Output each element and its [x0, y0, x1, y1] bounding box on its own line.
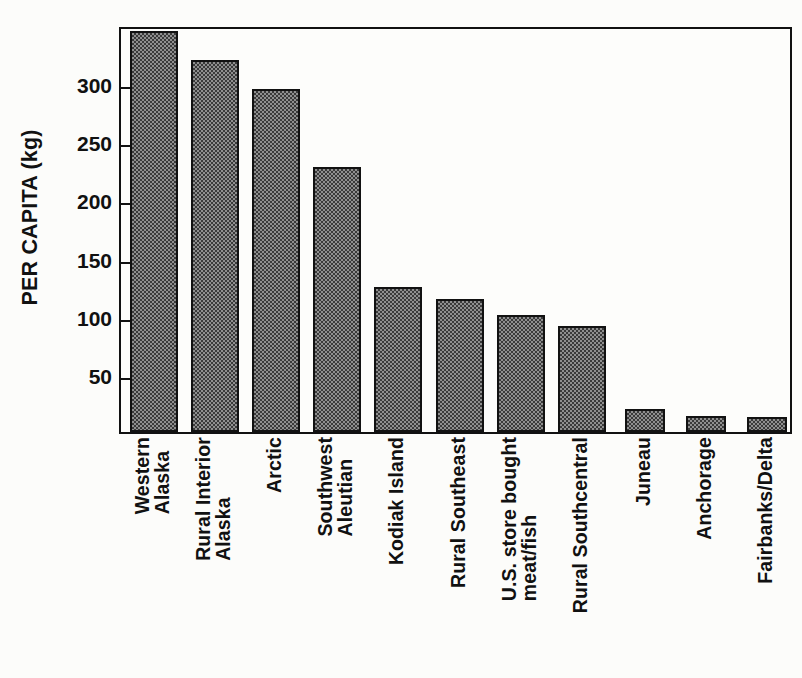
x-axis-category-label: Rural Southcentral [550, 437, 610, 675]
bar [130, 31, 178, 432]
y-axis-tick-labels: 50100150200250300 [52, 0, 112, 678]
x-axis-category-label-text: Rural Southcentral [570, 437, 590, 613]
x-axis-category-label: Arctic [244, 437, 304, 675]
x-axis-category-label: Rural Southeast [428, 437, 488, 675]
x-axis-category-label-text: Rural Southeast [447, 437, 467, 588]
bar [313, 167, 361, 432]
y-axis-tick-label: 200 [54, 191, 112, 212]
x-axis-category-label: Fairbanks/Delta [735, 437, 795, 675]
x-axis-category-label-text: WesternAlaska [132, 437, 172, 514]
bar [374, 287, 422, 432]
x-axis-category-label: U.S. store boughtmeat/fish [489, 437, 549, 675]
y-axis-title: PER CAPITA (kg) [8, 0, 52, 434]
y-axis-tick-label: 300 [54, 75, 112, 96]
y-axis-tick-label: 50 [54, 365, 112, 386]
bar [436, 299, 484, 432]
bar [686, 416, 726, 432]
x-axis-category-labels: WesternAlaskaRural InteriorAlaskaArcticS… [119, 437, 792, 678]
bar [747, 417, 787, 432]
y-axis-title-text: PER CAPITA (kg) [18, 129, 43, 305]
x-axis-category-label-text: Fairbanks/Delta [755, 437, 775, 584]
x-axis-category-label-text: Arctic [264, 437, 284, 493]
x-axis-category-label: Anchorage [674, 437, 734, 675]
x-axis-category-label-text: Rural InteriorAlaska [193, 437, 233, 561]
bar [625, 409, 665, 432]
x-axis-category-label-text: Kodiak Island [386, 437, 406, 565]
x-axis-category-label-text: Juneau [633, 437, 653, 506]
x-axis-category-label: SouthwestAleutian [305, 437, 365, 675]
chart-page: PER CAPITA (kg) 50100150200250300 Wester… [0, 0, 802, 678]
bar [558, 326, 606, 432]
x-axis-category-label-text: SouthwestAleutian [315, 437, 355, 537]
plot-inner [121, 29, 790, 432]
x-axis-category-label-text: Anchorage [694, 437, 714, 540]
x-axis-category-label: Kodiak Island [366, 437, 426, 675]
y-axis-tick-label: 100 [54, 307, 112, 328]
bar [191, 60, 239, 432]
caption-remnant [300, 667, 802, 678]
x-axis-category-label: Juneau [613, 437, 673, 675]
bar [497, 315, 545, 432]
x-axis-category-label: WesternAlaska [122, 437, 182, 675]
y-axis-tick-label: 250 [54, 133, 112, 154]
plot-area [119, 27, 792, 434]
y-axis-tick-label: 150 [54, 249, 112, 270]
x-axis-category-label: Rural InteriorAlaska [183, 437, 243, 675]
x-axis-category-label-text: U.S. store boughtmeat/fish [499, 437, 539, 601]
bar [252, 89, 300, 432]
